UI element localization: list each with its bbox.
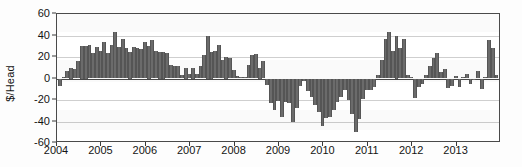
x-tick-mark	[145, 142, 146, 146]
x-tick-mark	[367, 142, 368, 146]
x-tick-mark	[456, 142, 457, 146]
x-tick-mark	[278, 142, 279, 146]
x-tick-mark	[411, 142, 412, 146]
x-tick-mark	[56, 142, 57, 146]
bar-chart: $/Head 6040200-20-40-60 2004200520062007…	[0, 0, 522, 167]
x-tick-mark	[100, 142, 101, 146]
x-tick-mark	[234, 142, 235, 146]
x-tick-mark	[322, 142, 323, 146]
x-axis-ticks: 2004200520062007200820092010201120122013	[0, 0, 522, 167]
x-tick-mark	[189, 142, 190, 146]
